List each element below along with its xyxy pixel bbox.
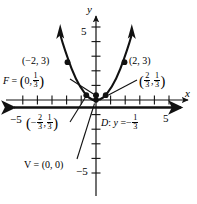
latus-right-fraction-x: 23 [144,72,150,90]
directrix-label-colon: : [108,117,111,128]
directrix-fraction: 13 [132,114,138,132]
latus-right-fraction-y: 13 [154,72,160,90]
point-label-left-top: (−2, 3) [22,56,49,66]
latus-right-open-paren: ( [139,73,144,89]
latus-left-fraction-x: 23 [37,114,43,132]
point-label-right-top: (2, 3) [129,56,151,66]
latus-right-close-paren: ) [161,73,166,89]
focus-leader-line [70,79,94,94]
y-tick-label-neg5: −5 [76,166,88,177]
latus-left-x-denominator: 3 [37,123,43,131]
latus-left-label: (−23,13) [26,114,58,132]
graph-canvas [0,0,197,204]
directrix-fraction-denominator: 3 [132,123,138,131]
latus-left-fraction-y: 13 [47,114,53,132]
latus-left-y-denominator: 3 [47,123,53,131]
latus-left-close-paren: ) [53,115,58,131]
focus-label-close-paren: ) [39,73,44,89]
focus-label-prefix: F [3,75,9,86]
x-axis-label: x [185,88,190,99]
focus-label-equals: = [12,75,18,86]
y-tick-label-5: 5 [81,26,87,37]
latus-right-y-denominator: 3 [154,81,160,89]
vertex-leader-line [77,104,95,160]
x-tick-label-neg5: −5 [10,114,22,125]
latus-left-leader-line [70,98,85,122]
focus-label: F = (0,13) [3,72,44,90]
directrix-label: D: y =−13 [101,114,139,132]
focus-label-fraction: 13 [33,72,39,90]
vertex-label: V = (0, 0) [24,160,63,170]
point-right-top-dot [122,59,128,65]
focus-fraction-denominator: 3 [33,81,39,89]
latus-right-dot [103,92,109,98]
point-left-top-dot [65,59,71,65]
latus-left-minus: − [31,117,37,128]
latus-right-x-denominator: 3 [144,81,150,89]
latus-left-dot [83,92,89,98]
latus-right-leader-line [109,80,138,95]
parabola-figure: y x 5 −5 −5 5 (−2, 3) (2, 3) F = (0,13) … [0,0,197,204]
y-axis-label: y [87,4,92,15]
directrix-label-variable: y [114,117,118,128]
vertex-dot [93,97,99,103]
latus-right-label: (23,13) [139,72,165,90]
directrix-label-minus: − [126,117,132,128]
x-tick-label-5: 5 [163,113,169,124]
